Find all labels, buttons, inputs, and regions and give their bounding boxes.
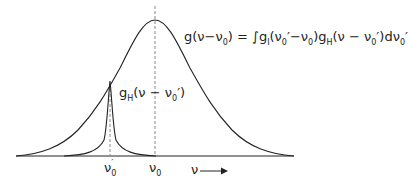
axis-nu: ν (191, 162, 198, 177)
axis-nu-label: ν (191, 162, 198, 177)
tick-nu0-prime: ν0′ (104, 160, 118, 178)
narrow-close: ′) (177, 85, 185, 100)
eq-gI-arg-b: ′−ν (287, 29, 308, 44)
narrow-profile-label: gH(ν − ν0′) (119, 85, 185, 103)
tick2-sub: 0 (156, 169, 161, 178)
tick1-sub: 0 (111, 169, 116, 178)
eq-arg: (ν−ν (192, 29, 223, 44)
eq-gH-arg: (ν − ν (333, 29, 372, 44)
eq-gI: g (259, 29, 267, 44)
tick-nu0: ν0 (149, 160, 161, 178)
eq-gH-close: ′)dν (376, 29, 400, 44)
eq-gI-arg: (ν (270, 29, 282, 44)
tick1-prime: ′ (111, 158, 113, 168)
narrow-arg: (ν − ν (133, 85, 172, 100)
eq-equals-integral: = ∫ (233, 29, 259, 44)
axis-arrow-head-icon (221, 168, 228, 175)
broad-profile-equation: g(ν−ν0) = ∫gI(ν0′−ν0)gH(ν − ν0′)dν0′ (184, 29, 408, 47)
